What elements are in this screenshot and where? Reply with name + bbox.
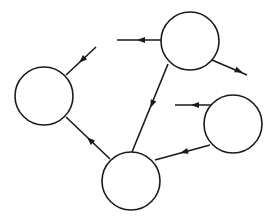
state-diagram [0,0,273,221]
edge-line [212,60,247,75]
node-top [161,12,219,70]
edge-top-to-bottom [132,64,168,152]
edge-top-out-right [212,60,247,75]
node-right [204,95,262,153]
edge-top-out-left [117,37,161,43]
edge-bottom-to-left [66,117,110,159]
edge-right-out-left [175,102,211,108]
node-left [15,67,73,125]
nodes-group [15,12,262,210]
arrowhead-icon [234,67,243,73]
arrowhead-icon [151,99,157,108]
node-bottom [102,152,160,210]
edge-left-in [66,47,96,75]
arrowhead-icon [137,37,145,43]
arrowhead-icon [180,148,189,154]
arrowhead-icon [191,102,199,108]
edge-line [132,64,168,152]
edge-right-to-bottom [155,145,210,160]
